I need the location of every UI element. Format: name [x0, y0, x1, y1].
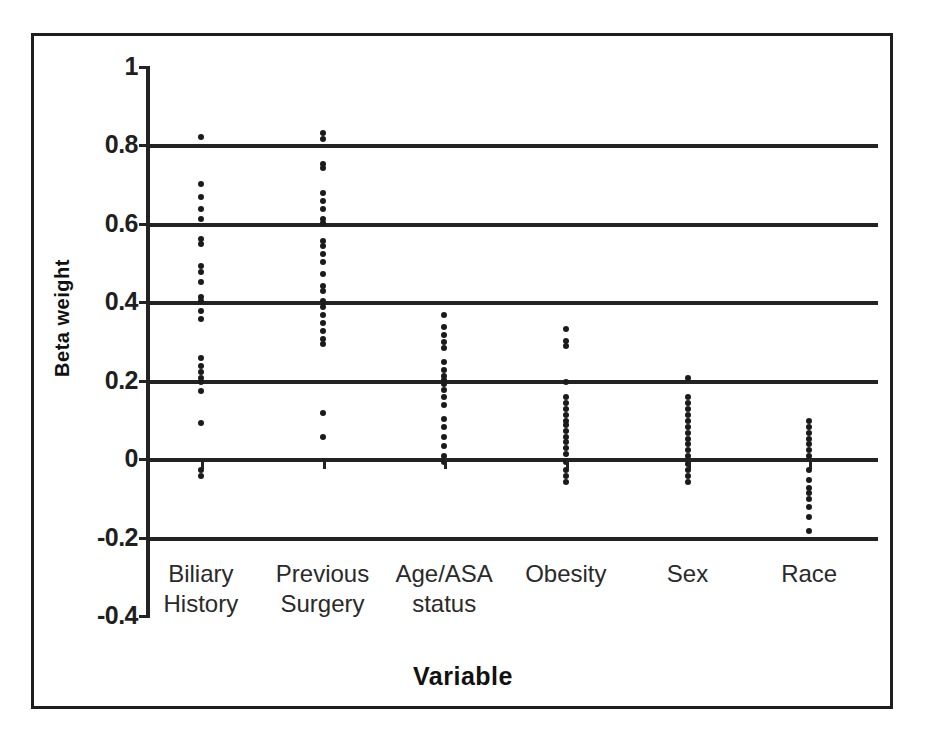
data-point [198, 279, 204, 285]
x-category-label-age-asa-status: Age/ASAstatus [395, 559, 492, 619]
data-point [198, 206, 204, 212]
y-axis-title: Beta weight [51, 259, 74, 377]
data-point [685, 479, 691, 485]
data-point [441, 324, 447, 330]
data-point [198, 216, 204, 222]
data-point [320, 328, 326, 334]
data-point [563, 379, 569, 385]
x-category-label-obesity: Obesity [525, 559, 606, 589]
x-category-label-line: History [163, 589, 238, 619]
x-category-label-line: Race [781, 559, 837, 589]
y-tick-mark [139, 223, 150, 226]
data-point [320, 312, 326, 318]
x-tick-mark [444, 458, 447, 469]
data-point [320, 271, 326, 277]
data-point [320, 220, 326, 226]
x-category-label-line: Biliary [163, 559, 238, 589]
y-tick-mark [139, 537, 150, 540]
data-point [441, 402, 447, 408]
data-point [320, 243, 326, 249]
y-tick-label: 0.2 [105, 365, 138, 394]
x-tick-mark [323, 458, 326, 469]
y-tick-label: 0 [125, 444, 138, 473]
y-axis: 10.80.60.40.20-0.2-0.4 [146, 66, 150, 615]
y-tick-label: -0.4 [97, 601, 138, 630]
x-category-label-line: Previous [276, 559, 369, 589]
x-category-label-line: status [395, 589, 492, 619]
data-point [685, 375, 691, 381]
data-point [198, 241, 204, 247]
y-tick-label: 1 [125, 52, 138, 81]
data-point [320, 259, 326, 265]
data-point [441, 443, 447, 449]
y-tick-mark [139, 380, 150, 383]
data-point [198, 473, 204, 479]
data-point [198, 379, 204, 385]
x-axis-title: Variable [0, 662, 926, 691]
y-tick-label: 0.8 [105, 130, 138, 159]
data-point [441, 394, 447, 400]
data-point [441, 434, 447, 440]
y-tick-label: 0.4 [105, 287, 138, 316]
x-tick-mark [809, 458, 812, 469]
data-point [320, 190, 326, 196]
data-point [198, 298, 204, 304]
x-category-label-line: Sex [667, 559, 708, 589]
x-category-label-race: Race [781, 559, 837, 589]
x-tick-mark [201, 458, 204, 469]
data-point [563, 479, 569, 485]
data-point [320, 206, 326, 212]
data-point [320, 320, 326, 326]
data-point [320, 410, 326, 416]
data-point [563, 451, 569, 457]
data-point [198, 308, 204, 314]
data-points-layer [148, 66, 878, 615]
data-point [563, 343, 569, 349]
data-point [806, 504, 812, 510]
data-point [320, 304, 326, 310]
x-category-label-biliary-history: BiliaryHistory [163, 559, 238, 619]
data-point [806, 528, 812, 534]
data-point [441, 332, 447, 338]
data-point [806, 496, 812, 502]
x-category-label-line: Age/ASA [395, 559, 492, 589]
x-tick-mark [688, 458, 691, 469]
data-point [320, 136, 326, 142]
x-category-label-previous-surgery: PreviousSurgery [276, 559, 369, 619]
data-point [198, 181, 204, 187]
data-point [320, 288, 326, 294]
data-point [320, 434, 326, 440]
data-point [806, 477, 812, 483]
data-point [320, 251, 326, 257]
data-point [320, 341, 326, 347]
y-tick-mark [139, 144, 150, 147]
data-point [320, 198, 326, 204]
plot-area [148, 66, 878, 615]
data-point [198, 316, 204, 322]
y-tick-label: -0.2 [97, 522, 138, 551]
y-tick-mark [139, 66, 150, 69]
x-tick-mark [566, 458, 569, 469]
data-point [441, 359, 447, 365]
data-point [441, 416, 447, 422]
data-point [198, 269, 204, 275]
data-point [320, 165, 326, 171]
data-point [441, 345, 447, 351]
data-point [441, 387, 447, 393]
y-tick-label: 0.6 [105, 208, 138, 237]
data-point [198, 194, 204, 200]
y-tick-mark [139, 301, 150, 304]
figure-root: 10.80.60.40.20-0.2-0.4 BiliaryHistoryPre… [0, 0, 926, 746]
y-tick-mark [139, 458, 150, 461]
data-point [198, 388, 204, 394]
x-category-label-line: Surgery [276, 589, 369, 619]
data-point [441, 312, 447, 318]
data-point [198, 420, 204, 426]
x-category-label-line: Obesity [525, 559, 606, 589]
data-point [563, 326, 569, 332]
data-point [198, 134, 204, 140]
data-point [806, 514, 812, 520]
x-category-label-sex: Sex [667, 559, 708, 589]
data-point [441, 424, 447, 430]
y-tick-mark [139, 615, 150, 618]
